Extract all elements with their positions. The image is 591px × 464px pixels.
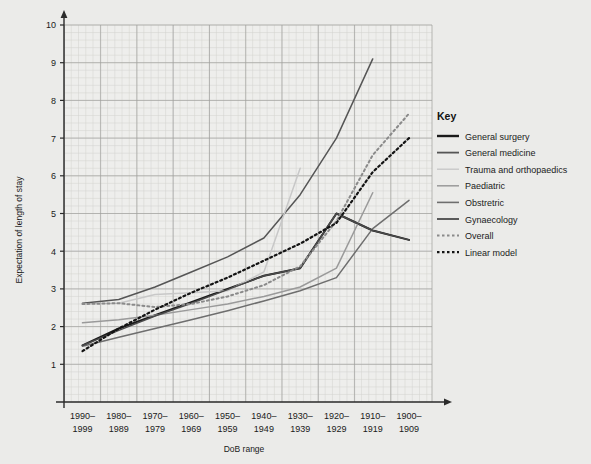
y-tick-label: 6 (51, 171, 56, 181)
x-tick-label-decade-end: 1949 (254, 424, 274, 434)
legend-label: Trauma and orthopaedics (465, 165, 568, 175)
y-axis-title: Expectation of length of stay (14, 176, 24, 284)
x-axis-title: DoB range (224, 444, 265, 454)
x-tick-label-decade-start: 1970– (143, 411, 168, 421)
x-tick-label-decade-end: 1999 (72, 424, 92, 434)
y-tick-label: 2 (51, 322, 56, 332)
line-chart: 12345678910 1990–19991980–19891970–19791… (0, 0, 591, 464)
x-tick-label-decade-end: 1919 (363, 424, 383, 434)
x-tick-label-decade-start: 1960– (179, 411, 204, 421)
y-tick-label: 10 (46, 20, 56, 30)
y-tick-label: 5 (51, 209, 56, 219)
x-tick-label-decade-end: 1939 (290, 424, 310, 434)
chart-figure: 12345678910 1990–19991980–19891970–19791… (0, 0, 591, 464)
x-tick-label-decade-start: 1930– (288, 411, 313, 421)
x-tick-label-decade-end: 1929 (326, 424, 346, 434)
legend-label: Overall (465, 231, 494, 241)
x-tick-label-decade-end: 1979 (145, 424, 165, 434)
y-tick-label: 4 (51, 247, 56, 257)
x-tick-label-decade-start: 1940– (251, 411, 276, 421)
x-tick-label-decade-end: 1959 (218, 424, 238, 434)
y-tick-label: 7 (51, 134, 56, 144)
y-tick-label: 9 (51, 58, 56, 68)
y-tick-label: 3 (51, 284, 56, 294)
legend-label: Paediatric (465, 181, 506, 191)
legend-label: Linear model (465, 248, 517, 258)
x-axis-title-text: DoB range (224, 444, 265, 454)
legend-label: General medicine (465, 148, 536, 158)
x-tick-label-decade-start: 1920– (324, 411, 349, 421)
x-tick-label-decade-end: 1969 (181, 424, 201, 434)
y-tick-label: 8 (51, 96, 56, 106)
x-tick-label-decade-end: 1989 (109, 424, 129, 434)
legend-label: Obstretric (465, 198, 505, 208)
x-tick-label-decade-start: 1980– (106, 411, 131, 421)
y-tick-label: 1 (51, 360, 56, 370)
x-tick-label-decade-start: 1990– (70, 411, 95, 421)
legend-title: Key (437, 110, 456, 122)
legend-label: Gynaecology (465, 215, 518, 225)
x-tick-label-decade-start: 1910– (360, 411, 385, 421)
legend-label: General surgery (465, 132, 530, 142)
y-axis-title-text: Expectation of length of stay (14, 176, 24, 284)
x-tick-label-decade-end: 1909 (399, 424, 419, 434)
x-tick-label-decade-start: 1950– (215, 411, 240, 421)
x-tick-label-decade-start: 1900– (396, 411, 421, 421)
